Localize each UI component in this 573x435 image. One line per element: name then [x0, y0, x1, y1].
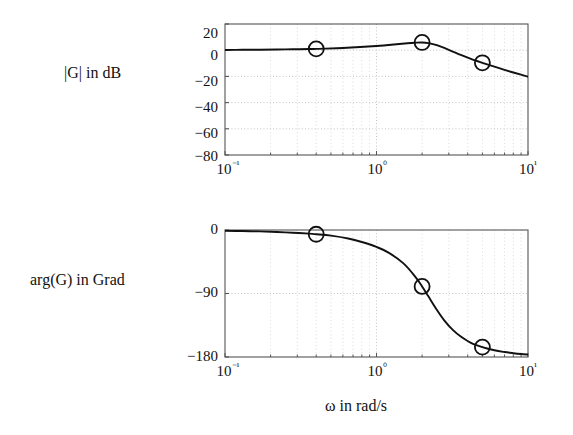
- x-axis-label: ω in rad/s: [325, 398, 387, 414]
- phase-canvas: [218, 224, 538, 369]
- magnitude-ytick-label: −40: [160, 100, 218, 115]
- phase-axis-label: arg(G) in Grad: [30, 272, 125, 288]
- magnitude-ytick-label: 0: [160, 48, 218, 63]
- phase-xtick-label: 10¹: [500, 362, 556, 379]
- magnitude-ytick-label: −60: [160, 126, 218, 141]
- magnitude-axis-label: |G| in dB: [64, 65, 121, 81]
- phase-xtick-label: 10⁻¹: [200, 362, 256, 379]
- magnitude-ytick-label: 20: [160, 26, 218, 41]
- magnitude-xtick-label: 10¹: [500, 160, 556, 177]
- phase-ytick-label: −90: [152, 285, 218, 300]
- phase-xtick-label: 10⁰: [349, 362, 405, 379]
- magnitude-ytick-label: −20: [160, 74, 218, 89]
- phase-ytick-label: 0: [160, 222, 218, 237]
- magnitude-xtick-label: 10⁰: [349, 160, 405, 177]
- bode-figure: |G| in dB 20 0 −20 −40 −60 −80 10⁻¹ 10⁰ …: [0, 0, 573, 435]
- magnitude-canvas: [218, 18, 538, 168]
- magnitude-xtick-label: 10⁻¹: [200, 160, 256, 177]
